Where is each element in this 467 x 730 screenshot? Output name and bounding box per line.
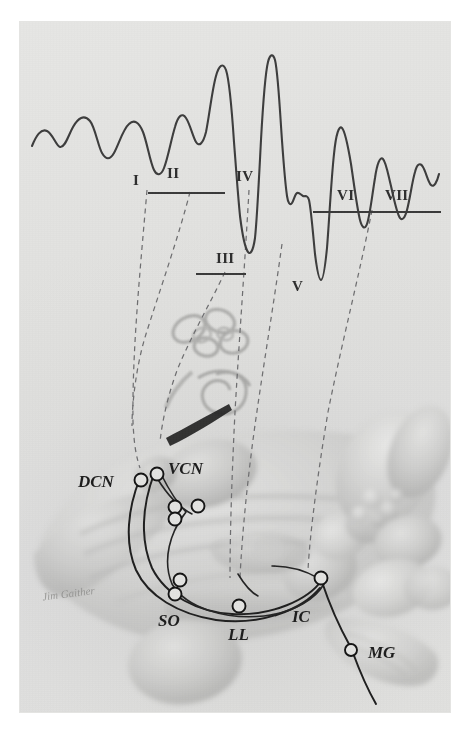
node-ic [315,572,328,585]
figure-canvas: I II III IV V VI VII [20,22,450,712]
node-vcn-a [151,468,164,481]
figure-root: I II III IV V VI VII [0,0,467,730]
node-vcn-b [169,501,182,514]
scanned-plate: I II III IV V VI VII [20,22,450,712]
label-ic: IC [291,607,311,626]
brainstem-illustration [34,394,450,712]
node-mg [345,644,357,656]
peak-label-III: III [216,250,234,266]
label-so: SO [158,611,180,630]
peak-label-I: I [133,172,139,188]
peak-label-VII: VII [385,187,408,203]
peak-label-IV: IV [236,168,253,184]
label-mg: MG [367,643,396,662]
waveform-peak-labels: I II III IV V VI VII [133,165,408,294]
label-dcn: DCN [77,472,115,491]
node-ll [233,600,246,613]
node-vcn-d [192,500,205,513]
label-vcn: VCN [168,459,204,478]
label-ll: LL [227,625,249,644]
peak-label-II: II [167,165,179,181]
node-so-b [169,588,182,601]
node-dcn [135,474,148,487]
peak-label-V: V [292,278,303,294]
node-vcn-c [169,513,182,526]
node-so-a [174,574,187,587]
peak-label-VI: VI [337,187,354,203]
waveform-brackets [148,193,441,274]
